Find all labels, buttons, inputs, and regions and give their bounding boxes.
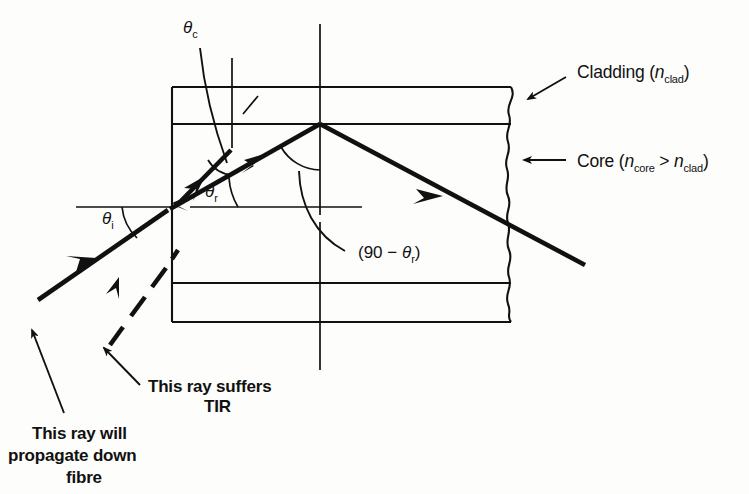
propagate-caption-line2: propagate down: [8, 446, 136, 465]
cladding-word: Cladding (: [577, 62, 655, 82]
ninety-prefix: (90 −: [358, 243, 402, 262]
tir-caption-line1: This ray suffers: [148, 377, 271, 396]
propagate-caption-line3: fibre: [66, 468, 102, 487]
core-word: Core (: [577, 151, 625, 171]
ninety-close: ): [415, 243, 421, 262]
ninety-minus-theta-r-label: (90 − θr): [358, 243, 421, 265]
optical-fibre-tir-diagram: θc θi θr (90 − θr) Cladding (nclad) Core…: [0, 0, 749, 494]
cladding-n-symbol: n: [655, 62, 665, 82]
theta-c-subscript: c: [192, 28, 198, 40]
core-greater-than: >: [655, 151, 674, 171]
theta-i-subscript: i: [111, 219, 113, 231]
core-n1-symbol: n: [624, 151, 634, 171]
propagate-caption-line1: This ray will: [32, 424, 127, 443]
cladding-n-subscript: clad: [664, 73, 683, 85]
core-n2-symbol: n: [674, 151, 684, 171]
core-paren-close: ): [703, 151, 709, 171]
core-n2-subscript: clad: [683, 162, 702, 174]
theta-r-subscript: r: [214, 192, 218, 204]
tir-caption-line2: TIR: [204, 397, 231, 416]
cladding-paren-close: ): [684, 62, 690, 82]
svg-text:(90 − θr): (90 − θr): [358, 243, 421, 265]
core-n1-subscript: core: [634, 162, 655, 174]
